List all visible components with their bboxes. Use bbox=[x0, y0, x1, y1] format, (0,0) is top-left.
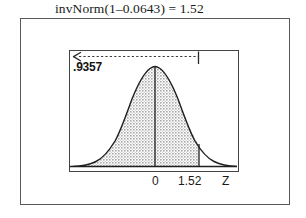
page-title: invNorm(1–0.0643) = 1.52 bbox=[55, 0, 275, 18]
probability-readout: .9357 bbox=[73, 60, 102, 74]
x-axis-tick-label-mean: 0 bbox=[152, 174, 159, 188]
figure-container: invNorm(1–0.0643) = 1.52 bbox=[0, 0, 306, 218]
x-axis-name-label: Z bbox=[222, 174, 229, 188]
figure-frame: .9357 0 1.52 Z bbox=[20, 18, 290, 205]
calculator-screen: .9357 bbox=[69, 50, 239, 172]
x-axis-tick-label-z-value: 1.52 bbox=[178, 174, 201, 188]
shaded-area-under-curve bbox=[76, 66, 199, 166]
